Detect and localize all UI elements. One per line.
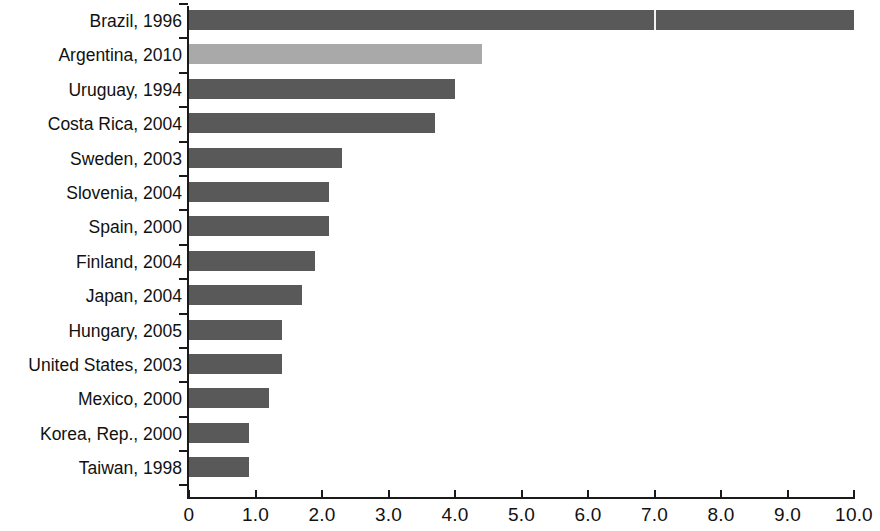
y-axis-tick-label: Uruguay, 1994 xyxy=(68,80,182,100)
bar xyxy=(189,79,455,99)
x-axis-tick xyxy=(654,490,656,499)
y-axis-tick-label: Spain, 2000 xyxy=(89,217,182,237)
x-axis-tick xyxy=(321,490,323,499)
bar xyxy=(189,388,269,408)
y-axis-tick-label: Hungary, 2005 xyxy=(68,321,182,341)
x-axis-tick xyxy=(255,490,257,499)
y-axis-tick-label: Korea, Rep., 2000 xyxy=(40,424,182,444)
y-axis-tick xyxy=(179,484,188,486)
y-axis-tick xyxy=(179,37,188,39)
bar xyxy=(189,423,249,443)
bar xyxy=(189,10,854,30)
x-axis-tick xyxy=(587,490,589,499)
bar-chart: Brazil, 1996Argentina, 2010Uruguay, 1994… xyxy=(0,0,880,531)
y-axis-tick xyxy=(179,244,188,246)
y-axis-tick-label: Mexico, 2000 xyxy=(78,389,182,409)
y-axis-tick xyxy=(179,175,188,177)
bar xyxy=(189,285,302,305)
y-axis-tick xyxy=(179,72,188,74)
y-axis-tick-label: Brazil, 1996 xyxy=(90,11,182,31)
x-axis-tick-label: 7.0 xyxy=(641,503,668,527)
x-axis-tick-label: 2.0 xyxy=(308,503,335,527)
y-axis-tick-label: Taiwan, 1998 xyxy=(79,458,182,478)
x-axis-tick-label: 1.0 xyxy=(242,503,269,527)
bar xyxy=(189,354,282,374)
y-axis-tick-label: United States, 2003 xyxy=(28,355,182,375)
x-axis-tick xyxy=(188,490,190,499)
x-axis-tick-label: 4.0 xyxy=(441,503,468,527)
x-axis-tick-label: 5.0 xyxy=(508,503,535,527)
y-axis-tick xyxy=(179,381,188,383)
bar xyxy=(189,182,329,202)
x-axis-tick-label: 0 xyxy=(184,503,195,527)
y-axis-tick-label: Sweden, 2003 xyxy=(70,149,182,169)
y-axis-tick xyxy=(179,106,188,108)
y-axis-tick-label: Finland, 2004 xyxy=(76,252,182,272)
y-axis-tick-label: Costa Rica, 2004 xyxy=(48,114,182,134)
scan-artifact xyxy=(654,10,656,30)
bar xyxy=(189,320,282,340)
bar xyxy=(189,148,342,168)
y-axis-tick xyxy=(179,3,188,5)
y-axis-tick-label: Argentina, 2010 xyxy=(58,45,182,65)
bar xyxy=(189,44,482,64)
x-axis-tick xyxy=(388,490,390,499)
x-axis-tick xyxy=(454,490,456,499)
bar xyxy=(189,216,329,236)
x-axis-tick xyxy=(787,490,789,499)
bar xyxy=(189,251,315,271)
y-axis-tick xyxy=(179,141,188,143)
x-axis-tick xyxy=(521,490,523,499)
x-axis-tick xyxy=(720,490,722,499)
x-axis-tick-label: 9.0 xyxy=(774,503,801,527)
y-axis-tick xyxy=(179,450,188,452)
x-axis-tick-label: 6.0 xyxy=(574,503,601,527)
y-axis-tick-label: Slovenia, 2004 xyxy=(66,183,182,203)
y-axis-tick xyxy=(179,278,188,280)
bar xyxy=(189,457,249,477)
y-axis-tick-label: Japan, 2004 xyxy=(86,286,182,306)
bar xyxy=(189,113,435,133)
y-axis-tick xyxy=(179,313,188,315)
y-axis-tick xyxy=(179,209,188,211)
x-axis-tick-label: 8.0 xyxy=(707,503,734,527)
y-axis-tick xyxy=(179,416,188,418)
x-axis-tick xyxy=(853,490,855,499)
x-axis-tick-label: 10.0 xyxy=(835,503,873,527)
y-axis-tick xyxy=(179,347,188,349)
x-axis-tick-label: 3.0 xyxy=(375,503,402,527)
